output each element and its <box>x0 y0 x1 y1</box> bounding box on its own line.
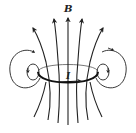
current-loop-field-diagram: B I <box>0 0 136 133</box>
side-loop-left-outer <box>10 50 40 88</box>
field-line-outer-left <box>33 28 50 120</box>
field-line-outer-right <box>86 28 103 120</box>
field-line-lower-right <box>90 82 102 117</box>
field-line-inner-right <box>77 19 83 123</box>
field-line-inner-left <box>54 19 60 123</box>
current-label-i: I <box>65 71 71 81</box>
field-line-lower-left <box>34 82 46 117</box>
side-loop-right-outer <box>96 50 126 88</box>
field-label-b: B <box>63 3 72 14</box>
